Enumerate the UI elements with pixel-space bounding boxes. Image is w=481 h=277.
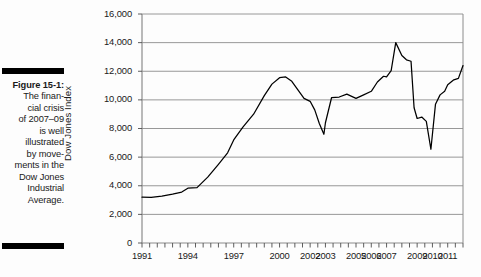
y-tick-label: 8,000 [90,122,132,133]
x-tick-label: 2003 [308,250,342,261]
chart-gridlines [142,14,463,243]
y-tick-label: 14,000 [90,36,132,47]
caption-line: of 2007–09 [2,114,64,125]
figure-number-label: Figure 15-1: [2,80,64,91]
x-tick-label: 1991 [125,250,159,261]
chart-x-tickmarks [142,243,463,248]
x-tick-label: 1994 [171,250,205,261]
y-tick-label: 6,000 [90,151,132,162]
figure-caption-text: Figure 15-1: The finan- cial crisis of 2… [2,74,64,206]
figure-caption-block: Figure 15-1: The finan- cial crisis of 2… [2,68,64,206]
y-tick-label: 4,000 [90,179,132,190]
chart-data-line [142,43,463,198]
y-tick-label: 0 [90,237,132,248]
x-tick-label: 1997 [217,250,251,261]
figure-root: Figure 15-1: The finan- cial crisis of 2… [0,0,481,277]
caption-line: The finan- [2,91,64,102]
chart-plot-svg [78,6,476,271]
x-tick-label: 2000 [263,250,297,261]
caption-line: is well [2,126,64,137]
caption-line: Average. [2,195,64,206]
y-tick-label: 16,000 [90,8,132,19]
caption-line: Dow Jones [2,172,64,183]
caption-line: by move- [2,149,64,160]
caption-line: ments in the [2,160,64,171]
caption-line: illustrated [2,137,64,148]
y-tick-label: 2,000 [90,208,132,219]
y-axis-title: Dow Jones Index [62,58,78,188]
x-tick-label: 2011 [431,250,465,261]
x-tick-label: 2007 [370,250,404,261]
caption-rule-bottom [2,243,64,249]
line-chart: 02,0004,0006,0008,00010,00012,00014,0001… [78,6,476,271]
caption-line: cial crisis [2,103,64,114]
caption-line: Industrial [2,183,64,194]
y-tick-label: 12,000 [90,65,132,76]
y-tick-label: 10,000 [90,93,132,104]
